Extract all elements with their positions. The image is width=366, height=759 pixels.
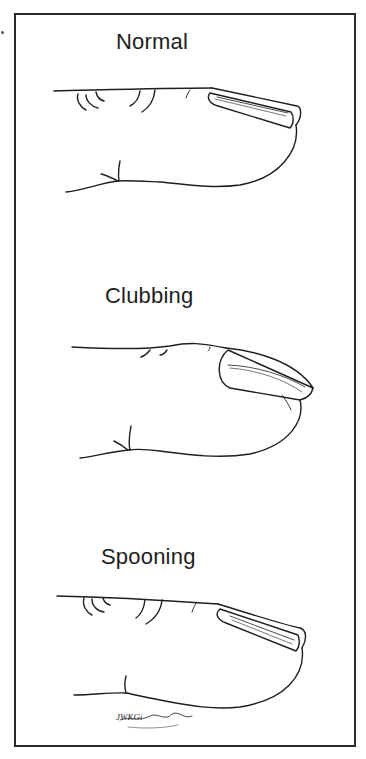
spooning-finger-drawing xyxy=(57,596,306,708)
normal-finger-drawing xyxy=(54,88,301,192)
finger-illustrations xyxy=(0,0,366,759)
clubbing-finger-drawing xyxy=(72,344,313,458)
signature-text: JWKGi xyxy=(116,712,143,722)
